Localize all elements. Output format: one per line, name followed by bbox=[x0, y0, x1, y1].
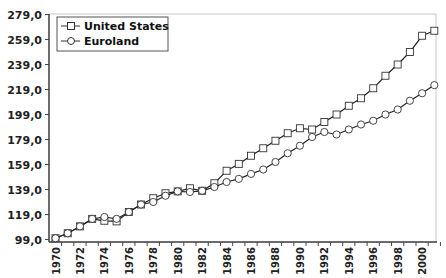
circle-marker-icon bbox=[113, 215, 120, 222]
circle-marker-icon bbox=[199, 187, 206, 194]
circle-marker-icon bbox=[321, 128, 328, 135]
circle-marker-icon bbox=[260, 166, 267, 173]
square-marker-icon bbox=[358, 95, 365, 102]
legend-label-euroland: Euroland bbox=[84, 35, 139, 48]
x-tick-label: 1978 bbox=[148, 247, 159, 275]
circle-marker-icon bbox=[64, 230, 71, 237]
x-tick-label: 1980 bbox=[173, 247, 184, 275]
x-tick-label: 1996 bbox=[368, 247, 379, 275]
circle-marker-icon bbox=[223, 178, 230, 185]
x-tick-label: 1994 bbox=[344, 247, 355, 275]
circle-marker-icon bbox=[406, 97, 413, 104]
y-tick-label: 199,0 bbox=[7, 109, 42, 122]
square-marker-icon bbox=[394, 61, 401, 68]
x-tick-label: 1992 bbox=[319, 247, 330, 275]
x-tick-label: 1984 bbox=[222, 247, 233, 275]
circle-marker-icon bbox=[68, 38, 75, 45]
square-marker-icon bbox=[431, 27, 438, 34]
legend-label-united-states: United States bbox=[84, 20, 169, 33]
circle-marker-icon bbox=[235, 175, 242, 182]
x-tick-label: 1988 bbox=[270, 247, 281, 275]
circle-marker-icon bbox=[247, 170, 254, 177]
y-tick-label: 99,0 bbox=[15, 234, 42, 247]
circle-marker-icon bbox=[419, 90, 426, 97]
circle-marker-icon bbox=[296, 142, 303, 149]
x-tick-label: 1986 bbox=[246, 247, 257, 275]
square-marker-icon bbox=[333, 111, 340, 118]
circle-marker-icon bbox=[125, 208, 132, 215]
circle-marker-icon bbox=[150, 198, 157, 205]
square-marker-icon bbox=[309, 126, 316, 133]
circle-marker-icon bbox=[211, 183, 218, 190]
circle-marker-icon bbox=[333, 131, 340, 138]
x-tick-label: 1972 bbox=[75, 247, 86, 275]
square-marker-icon bbox=[248, 152, 255, 159]
square-marker-icon bbox=[223, 167, 230, 174]
x-tick-label: 1982 bbox=[197, 247, 208, 275]
circle-marker-icon bbox=[89, 215, 96, 222]
circle-marker-icon bbox=[431, 82, 438, 89]
square-marker-icon bbox=[382, 72, 389, 79]
y-axis-ticks: 99,0119,0139,0159,0179,0199,0219,0239,02… bbox=[7, 9, 49, 247]
square-marker-icon bbox=[272, 137, 279, 144]
x-axis-ticks: 1970197219741976197819801982198419861988… bbox=[51, 242, 441, 275]
y-tick-label: 159,0 bbox=[7, 159, 42, 172]
circle-marker-icon bbox=[370, 117, 377, 124]
y-tick-label: 259,0 bbox=[7, 34, 42, 47]
x-tick-label: 1998 bbox=[393, 247, 404, 275]
circle-marker-icon bbox=[394, 106, 401, 113]
y-tick-label: 139,0 bbox=[7, 184, 42, 197]
circle-marker-icon bbox=[345, 126, 352, 133]
y-tick-label: 239,0 bbox=[7, 59, 42, 72]
circle-marker-icon bbox=[272, 158, 279, 165]
square-marker-icon bbox=[284, 130, 291, 137]
square-marker-icon bbox=[260, 145, 267, 152]
circle-marker-icon bbox=[101, 213, 108, 220]
square-marker-icon bbox=[406, 49, 413, 56]
x-tick-label: 2000 bbox=[417, 247, 428, 275]
circle-marker-icon bbox=[174, 188, 181, 195]
square-marker-icon bbox=[235, 160, 242, 167]
square-marker-icon bbox=[321, 119, 328, 126]
circle-marker-icon bbox=[309, 133, 316, 140]
x-tick-label: 1974 bbox=[99, 247, 110, 275]
circle-marker-icon bbox=[357, 121, 364, 128]
x-tick-label: 1976 bbox=[124, 247, 135, 275]
square-marker-icon bbox=[345, 102, 352, 109]
circle-marker-icon bbox=[162, 192, 169, 199]
y-tick-label: 279,0 bbox=[7, 9, 42, 22]
square-marker-icon bbox=[370, 85, 377, 92]
circle-marker-icon bbox=[52, 235, 59, 242]
y-tick-label: 179,0 bbox=[7, 134, 42, 147]
y-tick-label: 219,0 bbox=[7, 84, 42, 97]
line-chart: 99,0119,0139,0159,0179,0199,0219,0239,02… bbox=[0, 0, 446, 278]
circle-marker-icon bbox=[137, 201, 144, 208]
x-tick-label: 1990 bbox=[295, 247, 306, 275]
legend: United States Euroland bbox=[57, 17, 169, 51]
square-marker-icon bbox=[296, 125, 303, 132]
square-marker-icon bbox=[68, 23, 75, 30]
circle-marker-icon bbox=[186, 188, 193, 195]
x-tick-label: 1970 bbox=[51, 247, 62, 275]
circle-marker-icon bbox=[382, 111, 389, 118]
circle-marker-icon bbox=[284, 150, 291, 157]
square-marker-icon bbox=[419, 32, 426, 39]
y-tick-label: 119,0 bbox=[7, 209, 42, 222]
circle-marker-icon bbox=[76, 223, 83, 230]
